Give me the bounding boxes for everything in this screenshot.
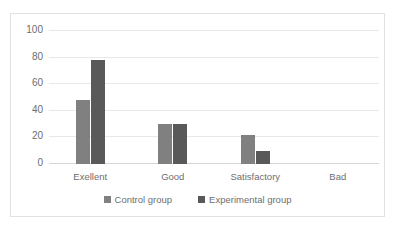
legend-swatch-icon [104,196,111,203]
y-axis-tick-label: 40 [32,105,43,115]
bar [76,100,90,164]
category-axis-label: Good [161,172,184,182]
legend-item[interactable]: Control group [104,195,173,205]
y-axis-tick-label: 20 [32,131,43,141]
bar [91,60,105,164]
plot-area: 020406080100 ExellentGoodSatisfactoryBad [49,31,379,164]
bar [158,124,172,164]
bars-layer [49,31,379,164]
category-axis-label: Bad [329,172,346,182]
y-axis-tick-label: 80 [32,52,43,62]
legend-swatch-icon [198,196,205,203]
bar [241,135,255,164]
chart-legend: Control groupExperimental group [11,195,384,205]
legend-item[interactable]: Experimental group [198,195,291,205]
y-axis-tick-label: 0 [37,158,43,168]
bar [256,151,270,164]
category-axis-label: Satisfactory [230,172,280,182]
legend-label: Experimental group [209,195,291,205]
y-axis-tick-label: 100 [26,25,43,35]
legend-label: Control group [115,195,173,205]
bar [173,124,187,164]
y-axis-tick-label: 60 [32,78,43,88]
category-axis-label: Exellent [73,172,107,182]
bar-chart-figure: 020406080100 ExellentGoodSatisfactoryBad… [10,13,385,217]
